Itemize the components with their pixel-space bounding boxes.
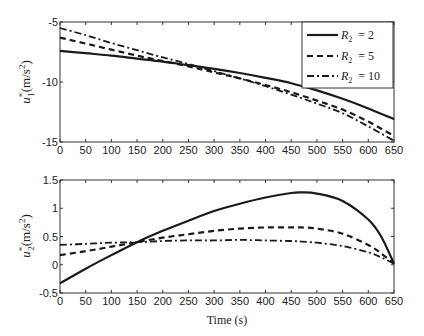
x-axis-label: Time (s) [207,313,248,327]
bottom-y-ticks: -0.500.511.5 [39,174,394,299]
bottom-y-axis-label: u*2(m/s2) [17,214,36,257]
series-line [60,227,394,263]
x-tick-label: 150 [128,295,146,307]
bottom-series-lines [60,192,394,283]
x-tick-label: 350 [231,295,249,307]
x-tick-label: 50 [80,295,92,307]
x-tick-label: 450 [282,295,300,307]
y-tick-label: 1.5 [43,174,58,186]
y-tick-label: -10 [42,76,58,88]
x-tick-label: 650 [385,144,403,156]
y-tick-label: -5 [48,16,58,28]
x-tick-label: 50 [80,144,92,156]
x-tick-label: 500 [308,295,326,307]
x-tick-label: 250 [179,144,197,156]
x-tick-label: 450 [282,144,300,156]
y-tick-label: 0.5 [43,231,58,243]
x-tick-label: 300 [205,144,223,156]
x-tick-label: 300 [205,295,223,307]
x-tick-label: 150 [128,144,146,156]
series-line [60,240,394,264]
top-y-axis-label: u*1(m/s2) [17,60,36,103]
svg-text:R2= 10: R2= 10 [340,69,380,85]
figure: 050100150200250300350400450500550600650 … [0,0,424,336]
y-tick-label: -0.5 [39,287,58,299]
bottom-plot-u2: 050100150200250300350400450500550600650 … [17,174,403,327]
x-tick-label: 550 [333,295,351,307]
x-tick-label: 500 [308,144,326,156]
legend: R2= 2 R2= 5 R2= 10 [302,22,393,88]
x-tick-label: 400 [256,295,274,307]
y-tick-label: 0 [52,259,58,271]
x-tick-label: 400 [256,144,274,156]
top-plot-u1: 050100150200250300350400450500550600650 … [17,16,403,156]
x-tick-label: 200 [154,144,172,156]
y-tick-label: 1 [52,202,58,214]
x-tick-label: 200 [154,295,172,307]
y-tick-label: -15 [42,136,58,148]
series-line [60,192,394,283]
x-tick-label: 350 [231,144,249,156]
x-tick-label: 650 [385,295,403,307]
x-tick-label: 100 [102,144,120,156]
x-tick-label: 250 [179,295,197,307]
x-tick-label: 100 [102,295,120,307]
x-tick-label: 600 [359,295,377,307]
bottom-plot-frame [60,180,394,293]
x-tick-label: 550 [333,144,351,156]
x-tick-label: 600 [359,144,377,156]
